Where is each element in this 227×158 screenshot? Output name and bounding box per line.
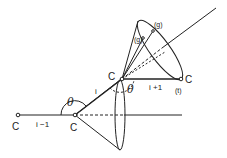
state-g-inner-label: (g) [134, 36, 143, 44]
atom-c-right-label: C [185, 74, 192, 85]
state-g-outer-dot [152, 30, 155, 33]
state-t-label: (t) [175, 87, 182, 95]
bond-i-label: i [95, 87, 97, 96]
atom-c-left-label: C [12, 121, 19, 132]
chain-conformation-diagram: C C C C i −1 i i +1 θ θ (t) (g) (g) [0, 0, 227, 158]
atom-c-mid-label: C [70, 122, 77, 133]
bond-i-minus-1-label: i −1 [36, 120, 50, 129]
lower-cone-edge-bottom [75, 115, 120, 150]
bond-i-plus-1-label: i +1 [149, 83, 163, 92]
atom-c-right-dot [179, 77, 183, 81]
upper-axis-solid [162, 8, 216, 48]
upper-axis-dashed [122, 48, 162, 79]
state-g-outer-label: (g) [154, 21, 163, 29]
atom-c-mid-dot [73, 113, 77, 117]
theta-upper-label: θ [127, 83, 134, 96]
atom-c-left-dot [16, 113, 20, 117]
atom-c-upper-dot [120, 77, 124, 81]
atom-c-upper-label: C [108, 71, 115, 82]
theta-lower-label: θ [67, 96, 74, 109]
